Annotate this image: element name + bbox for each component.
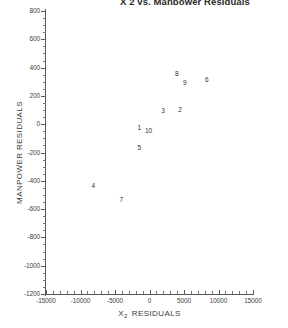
data-point: 10 (145, 127, 152, 134)
y-tick-label: -1200 (0, 290, 40, 297)
data-point: 9 (183, 78, 186, 85)
y-tick-label: 800 (0, 7, 40, 14)
y-tick-label: 600 (0, 35, 40, 42)
data-point: 1 (137, 124, 140, 131)
chart-title: X 2 vs. Manpower Residuals (120, 0, 288, 5)
y-axis-title: MANPOWER RESIDUALS (15, 78, 24, 228)
data-point: 7 (119, 196, 122, 203)
plot-area (46, 11, 253, 294)
data-point: 6 (205, 75, 208, 82)
x-axis-title-tail: RESIDUALS (132, 309, 181, 318)
data-point: 4 (92, 182, 95, 189)
data-point: 2 (178, 105, 181, 112)
x-tick-major (253, 290, 254, 295)
data-point: 8 (175, 69, 178, 76)
y-tick-label: -800 (0, 233, 40, 240)
y-tick-label: 400 (0, 64, 40, 71)
y-tick-label: -1000 (0, 262, 40, 269)
data-point: 3 (161, 106, 164, 113)
x-tick-label: 15000 (223, 297, 283, 304)
scatter-chart: X 2 vs. Manpower Residuals -1200-1000-80… (0, 0, 288, 328)
data-point: 5 (137, 144, 140, 151)
x-axis-title: X2 RESIDUALS (46, 309, 253, 319)
